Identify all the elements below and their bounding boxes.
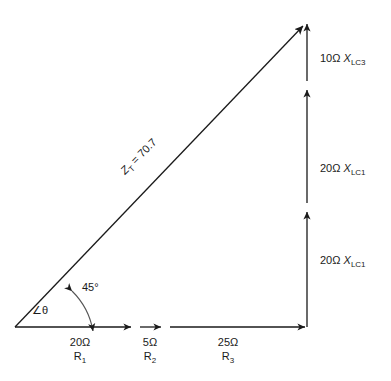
hypotenuse-vector [15, 26, 303, 327]
vertical-label-xlc1-lower-symbol: X [344, 254, 351, 266]
vertical-label-xlc1-lower-magnitude: 20Ω [320, 254, 340, 266]
horizontal-label-r3-magnitude: 25Ω [218, 336, 238, 348]
vertical-label-xlc1-middle-subscript: LC1 [351, 168, 366, 177]
vertical-label-xlc3-upper-subscript: LC3 [351, 58, 366, 67]
vertical-label-xlc1-lower-subscript: LC1 [351, 260, 366, 269]
vertical-label-xlc1-lower: 20Ω XLC1 [320, 254, 366, 271]
vertical-label-xlc1-middle: 20Ω XLC1 [320, 162, 366, 179]
horizontal-label-r1-magnitude: 20Ω [70, 336, 90, 348]
horizontal-label-r2-component: R2 [125, 350, 175, 367]
angle-arc [72, 291, 93, 331]
hypotenuse-line [15, 26, 303, 327]
impedance-triangle-diagram: ZT = 70.7 ∠θ 45° 20Ω R1 5Ω R2 25Ω R3 20Ω… [0, 0, 391, 381]
vertical-label-xlc1-middle-symbol: X [344, 162, 351, 174]
horizontal-label-r1-component: R1 [52, 350, 108, 367]
horizontal-label-r2-magnitude: 5Ω [143, 336, 157, 348]
angle-theta-label: ∠θ [32, 304, 48, 317]
vertical-label-xlc3-upper: 10Ω XLC3 [320, 52, 366, 69]
horizontal-label-r1: 20Ω R1 [52, 336, 108, 367]
angle-arc-group [72, 291, 93, 331]
vertical-label-xlc3-upper-magnitude: 10Ω [320, 52, 340, 64]
vertical-label-xlc3-upper-symbol: X [344, 52, 351, 64]
horizontal-label-r2: 5Ω R2 [125, 336, 175, 367]
horizontal-label-r3: 25Ω R3 [200, 336, 256, 367]
horizontal-label-r3-component: R3 [200, 350, 256, 367]
angle-value-label: 45° [82, 281, 99, 294]
vertical-label-xlc1-middle-magnitude: 20Ω [320, 162, 340, 174]
